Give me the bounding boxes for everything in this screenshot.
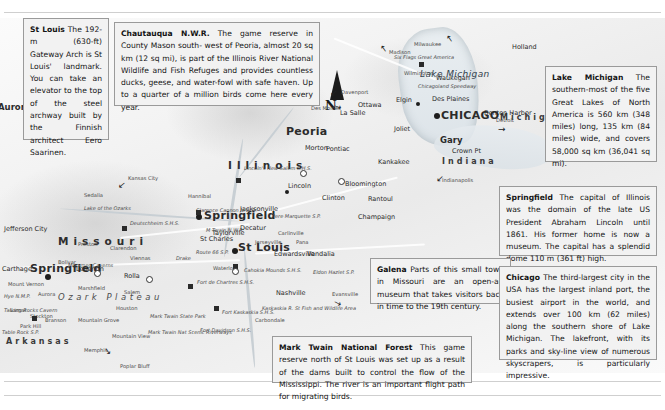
park-label-clarence-cannon-nwr: Clarence Cannon N.W.R. [196, 208, 230, 214]
park-label-mark-twain-state-park: Mark Twain State Park [150, 314, 186, 320]
city-label-morton[interactable]: Morton [305, 145, 328, 152]
city-label-gary[interactable]: Gary [440, 136, 462, 145]
park-label-hye-nmp: Hye N.M.P. [4, 294, 34, 300]
city-label-crown-pt[interactable]: Crown Pt [452, 148, 481, 155]
poi-marker-talking-rocks[interactable] [32, 316, 37, 321]
park-label-deutschheim: Deutschheim S.H.S. [130, 221, 170, 227]
city-dot-rolla[interactable] [146, 276, 153, 283]
callout-springfield[interactable]: Springfield The capital of Illinois was … [499, 186, 657, 256]
city-label-wilmington[interactable]: Wilmington [404, 71, 433, 76]
callout-title-mark-twain: Mark Twain National Forest [279, 343, 412, 352]
city-label-rantoul[interactable]: Rantoul [368, 196, 393, 203]
callout-lake-michigan[interactable]: Lake Michigan The southern-most of the f… [545, 66, 657, 162]
city-label-clarendon[interactable]: Clarendon [110, 246, 137, 251]
callout-st-louis[interactable]: St Louis The 192-m (630-ft) Gateway Arch… [23, 18, 109, 140]
city-label-aurora-mo[interactable]: Aurora [38, 292, 55, 297]
city-label-nashville[interactable]: Nashville [276, 290, 306, 297]
city-label-des-plaines[interactable]: Des Plaines [432, 96, 469, 103]
city-label-viennas[interactable]: Viennas [130, 256, 151, 261]
city-label-preston[interactable]: Preston [78, 242, 97, 247]
park-label-eldon-hazlet: Eldon Hazlet S.P. [313, 270, 359, 276]
city-label-vandalia[interactable]: Vandalia [307, 251, 335, 258]
region-label-ozark-plateau: Ozark Plateau [58, 293, 163, 302]
city-label-pontiac[interactable]: Pontiac [326, 146, 350, 153]
city-label-la-salle[interactable]: La Salle [340, 110, 365, 117]
city-label-carthage[interactable]: Carthage [2, 266, 32, 273]
park-label-drake: Drake [176, 256, 198, 262]
city-label-hannibal[interactable]: Hannibal [188, 194, 211, 199]
arrow-icon-detroit: → [498, 124, 506, 134]
park-label-pere-marquette: Pere Marquette S.P. [272, 214, 310, 220]
city-dot-chicago[interactable] [434, 113, 440, 119]
pointer-label-kansas-city: Kansas City [128, 176, 158, 181]
pointer-label-milwaukee: Milwaukee [414, 42, 441, 47]
callout-chicago[interactable]: Chicago The third-largest city in the US… [499, 266, 657, 360]
city-label-pana[interactable]: Pana [296, 240, 309, 245]
city-label-clinton[interactable]: Clinton [322, 195, 345, 202]
city-label-rolla[interactable]: Rolla [124, 273, 140, 280]
callout-title-chautauqua: Chautauqua N.W.R. [121, 29, 210, 38]
pointer-label-indianapolis: Indianapolis [442, 178, 473, 183]
city-dot-peoria[interactable] [300, 170, 307, 177]
city-dot-lebanon[interactable] [94, 270, 101, 277]
arrow-icon-madison: ↑ [378, 43, 390, 56]
city-label-peoria[interactable]: Peoria [286, 126, 328, 137]
park-label-table-rock-sp: Table Rock S.P. [2, 330, 36, 336]
city-label-waukegan[interactable]: Waukegan [436, 75, 470, 82]
city-label-kankakee[interactable]: Kankakee [378, 159, 409, 166]
top-divider [4, 12, 661, 13]
poi-marker-clarence-cannon[interactable] [196, 210, 201, 215]
callout-chautauqua[interactable]: Chautauqua N.W.R. The game reserve in Co… [114, 22, 320, 106]
city-label-jefferson-city[interactable]: Jefferson City [4, 226, 47, 233]
callout-body-st-louis: The 192-m (630-ft) Gateway Arch is St Lo… [30, 25, 102, 157]
park-label-six-flags-great-america: Six Flags Great America [394, 55, 428, 61]
city-label-elgin[interactable]: Elgin [396, 97, 412, 104]
city-label-carlinville[interactable]: Carlinville [278, 231, 304, 236]
city-dot-bloomington[interactable] [338, 178, 345, 185]
city-label-houston[interactable]: Houston [116, 306, 138, 311]
city-label-mount-vernon[interactable]: Mount Vernon [8, 282, 44, 287]
city-label-jerseyville[interactable]: Jerseyville [255, 240, 281, 245]
city-dot-lincoln[interactable] [285, 190, 289, 194]
callout-mark-twain[interactable]: Mark Twain National Forest This game res… [272, 336, 472, 383]
arrow-icon-kansas-city: ← [116, 179, 128, 192]
city-label-lincoln[interactable]: Lincoln [288, 183, 311, 190]
poi-marker-new-salem[interactable] [236, 178, 241, 183]
callout-title-chicago: Chicago [506, 273, 540, 282]
arrow-icon-indianapolis: ↓ [434, 173, 446, 185]
city-label-champaign[interactable]: Champaign [358, 214, 395, 221]
callout-body-chautauqua: The game reserve in County Mason south- … [121, 29, 313, 112]
callout-title-galena: Galena [377, 265, 407, 274]
pointer-label-detroit: Detroit [496, 118, 514, 123]
city-label-holland[interactable]: Holland [512, 44, 537, 51]
city-label-salem[interactable]: Salem [124, 290, 140, 295]
city-label-marshfield[interactable]: Marshfield [78, 286, 105, 291]
city-label-edwardsville[interactable]: Edwardsville [274, 251, 298, 258]
callout-title-lake-michigan: Lake Michigan [552, 73, 623, 82]
park-label-m-twain-nwr: M Twain N.W.R. [206, 228, 236, 234]
city-label-st-charles[interactable]: St Charles [200, 236, 233, 243]
city-label-carbondale[interactable]: Carbondale [255, 318, 285, 323]
poi-marker-fort-kaskaskia[interactable] [214, 306, 219, 311]
park-label-cahokia-mounds: Cahokia Mounds S.H.S. [244, 268, 276, 274]
city-label-joliet[interactable]: Joliet [394, 126, 410, 133]
water-label-lake-of-the-ozarks: Lake of the Ozarks [84, 206, 114, 212]
callout-title-springfield: Springfield [506, 193, 553, 202]
city-label-ottawa[interactable]: Ottawa [358, 102, 382, 109]
state-label-arkansas: Arkansas [6, 338, 71, 346]
city-label-sedalia[interactable]: Sedalia [84, 193, 103, 198]
city-dot-waterloo[interactable] [232, 268, 239, 275]
city-label-mountain-grove[interactable]: Mountain Grove [78, 318, 102, 324]
callout-body-chicago: The third-largest city in the USA has th… [506, 273, 650, 380]
park-label-chicagoland-speedway: Chicagoland Speedway [418, 84, 456, 90]
poi-marker-deutschheim[interactable] [122, 226, 127, 231]
city-label-mountain-view[interactable]: Mountain View [112, 334, 134, 340]
park-label-lincolns-new-salem: Lincoln's New Salem S.H.S. [244, 166, 278, 172]
poi-marker-six-flags[interactable] [419, 62, 424, 67]
poi-marker-fort-de-chartres[interactable] [188, 284, 193, 289]
city-dot-des-plaines[interactable] [416, 102, 420, 106]
callout-galena[interactable]: Galena Parts of this small town in Misso… [370, 258, 511, 304]
park-label-mark-twain-riverways: Mark Twain Nat Scenic Riverways [148, 330, 188, 336]
city-label-bloomington[interactable]: Bloomington [345, 181, 386, 188]
callout-body-springfield: The capital of Illinois was the domain o… [506, 193, 650, 263]
